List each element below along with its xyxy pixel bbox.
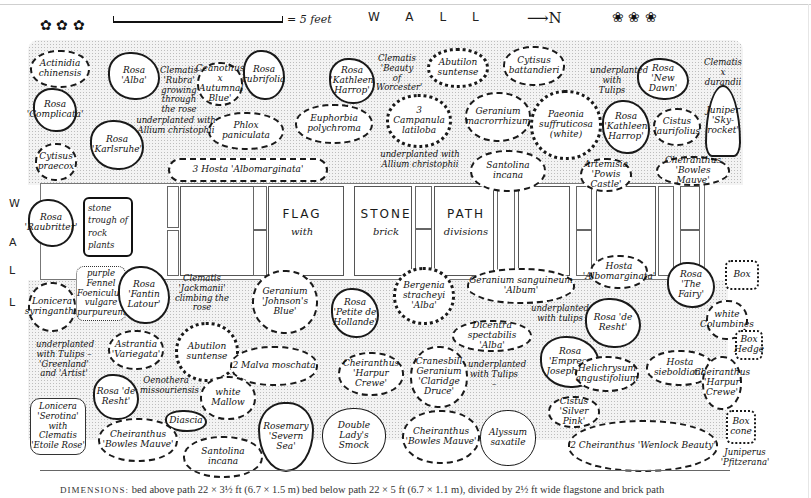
north-label: N: [549, 9, 562, 27]
plant-abutilon-1: Abutilon suntense: [427, 48, 489, 88]
plant-cheiranthus-bowles-2: Cheiranthus 'Bowles Mauve': [98, 418, 178, 462]
brick: [167, 230, 179, 276]
plant-cistus-laurifolius: Cistus laurifolius: [653, 108, 701, 146]
plant-cistus-silver-pink: Cistus 'Silver Pink': [548, 396, 600, 428]
plant-euphorbia: Euphorbia polychroma: [295, 104, 373, 144]
note-clematis-rubra: Clematis 'Rubra' growing through the ros…: [158, 66, 200, 115]
plant-box-cone: Box cone: [726, 410, 756, 444]
plant-paeonia: Paeonia suffruticosa (white): [530, 90, 602, 160]
plant-rosemary: Rosemary 'Severn Sea': [258, 402, 314, 472]
scale-tick-right: [282, 16, 283, 23]
plant-hosta-albomarginata-1: 3 Hosta 'Albomarginata': [168, 158, 328, 182]
brick: [576, 186, 592, 230]
plant-cheiranthus-bowles-3: Cheiranthus 'Bowles Mauve': [402, 410, 480, 464]
plant-abutilon-2: Abutilon suntense: [175, 322, 239, 382]
scale-label: = 5 feet: [287, 13, 332, 26]
brick: [253, 186, 267, 230]
plant-astrantia: Astrantia 'Variegata': [108, 330, 164, 370]
path-word-stone: STONE: [356, 207, 416, 221]
plant-box-hedge: Box Hedge: [735, 330, 763, 360]
note-underplanted-allium-1: underplanted with Allium christophii: [136, 116, 216, 136]
path-sub-with: with: [272, 226, 332, 237]
plant-bergenia: Bergenia stracheyi 'Alba': [393, 267, 455, 325]
plant-cheiranthus-wenlock: 2 Cheiranthus 'Wenlock Beauty': [568, 420, 718, 472]
path-word-path: PATH: [436, 207, 496, 221]
plant-box: Box: [725, 260, 759, 290]
plant-rosa-rubrifolia: Rosa rubrifolia: [243, 50, 285, 100]
scale-bar: [113, 21, 283, 23]
brick: [415, 186, 432, 229]
brick: [680, 186, 700, 230]
plant-geranium-macrorrhizum: Geranium macrorrhizum: [465, 92, 531, 142]
brick: [167, 186, 179, 228]
wall-label-top: WALL: [368, 10, 505, 24]
plant-juniperus-pfitzerana: Juniperus 'Pfitzerana': [710, 448, 780, 468]
plant-rosa-de-resht-1: Rosa 'de Resht': [585, 298, 641, 348]
wall-left-letter-l1: L: [9, 264, 15, 277]
flower-icon: ✿ ✿ ✿: [40, 18, 85, 32]
plant-santolina-1: Santolina incana: [470, 150, 546, 192]
plant-white-mallow: white Mallow: [200, 376, 256, 420]
caption-lead: DIMENSIONS:: [60, 485, 129, 495]
note-underplanted-tulips-greenland: underplanted with Tulips – 'Greenland' a…: [36, 340, 92, 379]
north-indicator: ⟶N: [527, 9, 562, 27]
brick: [253, 230, 267, 276]
stone-trough: stone trough of rock plants: [83, 197, 133, 257]
plant-dicentra: Dicentra spectabilis 'Alba': [452, 320, 532, 352]
plant-hosta-albomarginata-2: Hosta 'Albomarginata': [590, 255, 648, 289]
plant-cytisus-battandieri: Cytisus battandieri: [503, 46, 565, 86]
wall-left-letter-l2: L: [9, 296, 15, 309]
note-underplanted-tulips-mid: underplanted with tulips: [530, 304, 590, 324]
note-clematis-durandii: Clematis x durandii: [702, 58, 744, 87]
flagstone: [518, 186, 570, 276]
plant-lonicera-syringantha: Lonicera syringantha: [28, 282, 76, 332]
plant-rosa-de-resht-2: Rosa 'de Resht': [93, 374, 139, 420]
plant-geranium-sanguineum: Geranium sanguineum 'Album': [467, 268, 575, 304]
plant-cheiranthus-harpur-1: Cheiranthus 'Harpur Crewe': [338, 352, 404, 396]
plant-cheiranthus-bowles-1: Cheiranthus 'Bowles Mauve': [656, 156, 730, 186]
plant-rosa-the-fairy: Rosa 'The Fairy': [667, 262, 715, 308]
brick: [497, 186, 515, 276]
note-underplanted-tulips-low: underplanted with Tulips –: [468, 360, 520, 389]
plant-cheiranthus-harpur-2: Cheiranthus 'Harpur Crewe': [702, 356, 742, 410]
wall-left-letter-a: A: [9, 236, 17, 249]
plant-rosa-alba: Rosa 'Alba': [108, 52, 160, 100]
note-underplanted-tulips-top: underplanted with Tulips: [590, 66, 634, 95]
path-word-flag: FLAG: [272, 207, 332, 221]
plant-ceanothus: Ceanothus x 'Autumnal Blue': [197, 62, 243, 106]
top-border: [0, 4, 811, 5]
path-sub-divisions: divisions: [436, 226, 496, 237]
note-clematis-worcester: Clematis 'Beauty of Worcester': [376, 54, 418, 93]
plant-ladys-smock: Double Lady's Smock: [322, 408, 386, 464]
plant-cranesbill: Cranesbill Geranium 'Claridge Druce': [410, 346, 468, 408]
plant-rosa-petite-de-hollande: Rosa 'Petite de Hollande': [331, 288, 379, 338]
flagstone: [180, 186, 262, 276]
dimensions-caption: DIMENSIONS: bed above path 22 × 3½ ft (6…: [60, 484, 664, 495]
plant-artemisia: Artemisia 'Powis Castle': [580, 158, 632, 192]
brick: [658, 186, 674, 276]
rose-flower-icon: ❀ ❀ ❀: [612, 10, 657, 24]
plant-campanula: 3 Campanula latiloba: [386, 94, 452, 148]
plant-lonicera-serotina: Lonicera 'Serotina' with Clematis 'Etoil…: [30, 398, 86, 455]
note-oenothera: Oenothera missouriensis: [140, 376, 192, 396]
caption-text: bed above path 22 × 3½ ft (6.7 × 1.5 m) …: [129, 484, 664, 495]
plant-santolina-2: Santolina incana: [183, 436, 263, 478]
note-clematis-jackmanii: Clematis 'Jackmanii' climbing the rose: [172, 274, 232, 313]
plant-rosa-kathleen-1: Rosa 'Kathleen Harrop': [329, 58, 375, 104]
scale-tick-left: [113, 16, 114, 23]
right-border: [808, 4, 809, 498]
plant-rosa-raubritter: Rosa 'Raubritter': [28, 199, 74, 247]
brick-edging: [40, 470, 730, 471]
plant-phlox: Phlox paniculata: [208, 112, 284, 150]
plant-rosa-complicata: Rosa 'Complicata': [33, 88, 77, 132]
path-sub-brick: brick: [356, 226, 416, 237]
plant-actinidia: Actinidia chinensis: [30, 50, 90, 88]
plant-helichrysum: Helichrysum angustifolium: [575, 356, 639, 392]
plant-alyssum: Alyssum saxatile: [480, 410, 536, 466]
plant-geranium-johnsons-blue: Geranium 'Johnson's Blue': [252, 270, 318, 334]
wall-left-letter-w: W: [9, 197, 20, 210]
plant-cytisus-praecox: Cytisus praecox: [35, 143, 77, 181]
arrow-right-icon: ⟶: [527, 9, 549, 27]
note-underplanted-allium-2: underplanted with Allium christophii: [380, 150, 460, 170]
